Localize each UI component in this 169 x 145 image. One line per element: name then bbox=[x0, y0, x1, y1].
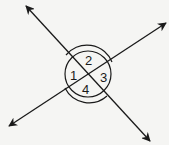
angle-label-3: 3 bbox=[100, 70, 107, 85]
angle-label-2: 2 bbox=[85, 53, 92, 68]
angle-label-1: 1 bbox=[70, 68, 77, 83]
angle-diagram: 1 2 3 4 bbox=[0, 0, 169, 145]
diagram-canvas: 1 2 3 4 bbox=[0, 0, 169, 145]
angle-label-4: 4 bbox=[82, 82, 89, 97]
line-b bbox=[9, 23, 166, 126]
